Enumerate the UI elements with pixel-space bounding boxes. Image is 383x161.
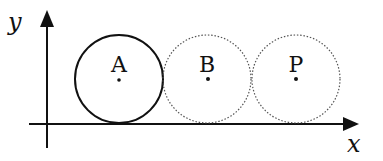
circle-p-label: P [289, 52, 304, 77]
circle-b-label: B [199, 52, 215, 77]
circle-a-center [117, 78, 121, 82]
x-axis-label: x [347, 130, 361, 158]
y-axis-label: y [7, 8, 22, 36]
circle-p: P [252, 35, 340, 123]
circle-b-center [206, 77, 210, 81]
circle-p-center [294, 77, 298, 81]
circle-a-label: A [110, 52, 128, 77]
circle-b: B [163, 35, 251, 123]
diagram: y x A B P [0, 0, 383, 161]
y-axis-arrow-icon [40, 10, 54, 27]
x-axis-arrow-icon [343, 117, 359, 131]
circle-a: A [75, 35, 163, 123]
